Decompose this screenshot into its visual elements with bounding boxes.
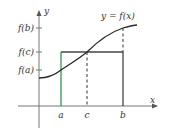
- y-tick-label-fa: f(a): [17, 65, 34, 75]
- x-tick-label-b: b: [120, 110, 126, 120]
- x-tick-label-a: a: [58, 110, 63, 120]
- y-tick-label-fb: f(b): [17, 23, 35, 33]
- y-axis-arrow: [37, 10, 42, 16]
- y-axis-label: y: [43, 6, 50, 16]
- x-tick-label-c: c: [84, 110, 89, 120]
- curve-label: y = f(x): [100, 11, 135, 21]
- x-axis-label: x: [150, 95, 155, 105]
- y-tick-label-fc: f(c): [18, 47, 35, 57]
- mean-value-diagram: x y f(b) f(c) f(a) a c b y = f(x): [0, 0, 170, 133]
